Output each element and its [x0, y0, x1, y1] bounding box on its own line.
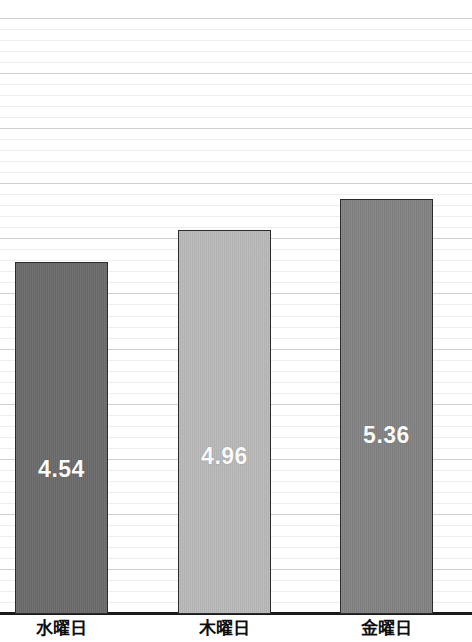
category-label-thursday: 木曜日 [178, 619, 271, 639]
bar-wednesday[interactable]: 4.54 [15, 262, 108, 614]
gridline-minor [0, 95, 472, 96]
gridline-minor [0, 51, 472, 52]
gridline-minor [0, 139, 472, 140]
gridline-minor [0, 40, 472, 41]
gridline-major [0, 128, 472, 129]
bar-value-label-friday: 5.36 [341, 424, 432, 447]
category-label-wednesday: 水曜日 [15, 619, 108, 639]
gridline-minor [0, 161, 472, 162]
gridline-minor [0, 150, 472, 151]
gridline-minor [0, 62, 472, 63]
gridline-minor [0, 117, 472, 118]
bar-thursday[interactable]: 4.96 [178, 230, 271, 614]
bar-chart: 4.54 4.96 5.36 水曜日 木曜日 金曜日 [0, 0, 472, 642]
gridline-minor [0, 172, 472, 173]
gridline-minor [0, 106, 472, 107]
category-label-friday: 金曜日 [340, 619, 433, 639]
gridline-minor [0, 29, 472, 30]
bar-friday[interactable]: 5.36 [340, 199, 433, 614]
gridline-minor [0, 84, 472, 85]
gridline-minor [0, 194, 472, 195]
gridline-major [0, 18, 472, 19]
bar-value-label-wednesday: 4.54 [16, 458, 107, 481]
bar-value-label-thursday: 4.96 [179, 445, 270, 468]
gridline-major [0, 73, 472, 74]
gridline-major [0, 183, 472, 184]
